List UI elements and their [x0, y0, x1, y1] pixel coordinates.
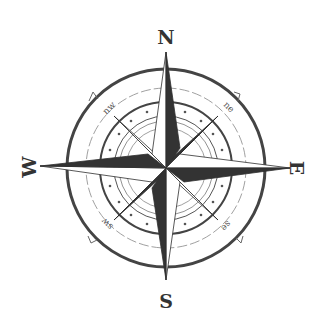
northeast-label: ne	[222, 100, 237, 115]
south-point	[166, 168, 180, 280]
north-label: N	[157, 26, 174, 48]
south-label: S	[159, 290, 173, 312]
east-label: E	[286, 161, 308, 175]
southeast-label: se	[219, 219, 233, 233]
east-point	[166, 154, 290, 168]
southwest-label: sw	[99, 216, 115, 232]
cardinal-points	[40, 52, 290, 280]
northwest-label: nw	[101, 99, 118, 116]
compass-rose: N S E W nw ne se sw	[0, 0, 330, 336]
west-point	[40, 166, 166, 182]
west-label: W	[18, 156, 40, 179]
